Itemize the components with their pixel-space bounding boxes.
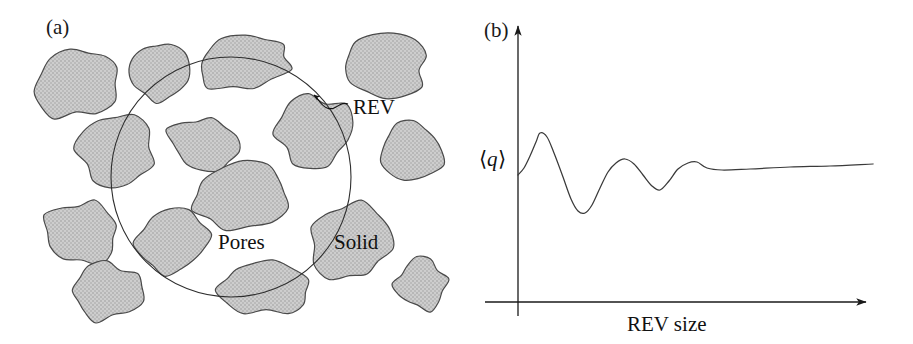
panel-b-label: (b) (484, 18, 509, 42)
grain-bottom-center (215, 260, 309, 314)
grain-inner-upper (166, 118, 240, 172)
grain-inner-lower-left (133, 208, 212, 276)
panel-b-rev-convergence-plot: (b) ⟨q⟩ REV size (456, 0, 913, 344)
pores-label: Pores (218, 230, 265, 254)
x-axis-label: REV size (627, 312, 707, 336)
grain-top-mid-left (129, 44, 190, 103)
panel-a-porous-medium: (a) REV Pores Solid (0, 0, 456, 344)
solid-label: Solid (334, 230, 379, 254)
panel-b-svg: (b) ⟨q⟩ REV size (456, 0, 913, 344)
panel-a-label: (a) (46, 15, 69, 39)
grain-top-center (201, 35, 292, 89)
grain-bottom-left (72, 260, 144, 323)
grain-top-right (346, 33, 427, 99)
panel-a-svg: (a) REV Pores Solid (0, 0, 456, 344)
grain-far-right-mid (380, 120, 444, 180)
rev-convergence-curve (518, 133, 873, 214)
grain-top-left (34, 49, 117, 119)
angle-bracket-left-icon: ⟨ (479, 147, 487, 171)
grain-left-lower (43, 200, 116, 265)
rev-label: REV (353, 95, 395, 119)
grain-bottom-right (392, 256, 449, 312)
grain-group (34, 33, 449, 323)
y-axis-label: ⟨q⟩ (479, 147, 506, 171)
y-axis-label-symbol: q (487, 147, 498, 171)
angle-bracket-right-icon: ⟩ (498, 147, 506, 171)
figure-container: (a) REV Pores Solid (b) ⟨q⟩ (0, 0, 913, 344)
